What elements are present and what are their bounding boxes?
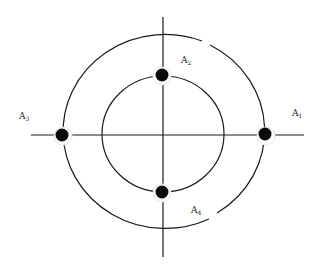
label-a4: A4 — [190, 205, 202, 216]
label-a2: A2 — [180, 55, 192, 66]
point-a3 — [54, 127, 72, 145]
point-a1 — [257, 127, 275, 145]
label-a1: A1 — [291, 108, 302, 119]
point-a4-dot — [156, 186, 169, 199]
point-a4 — [153, 184, 171, 202]
point-a1-dot — [259, 128, 272, 141]
point-a2 — [153, 67, 171, 85]
label-a3: A3 — [18, 111, 30, 122]
point-a3-dot — [56, 129, 69, 142]
diagram-canvas: A2 A3 A1 A4 — [0, 0, 320, 267]
point-a2-dot — [156, 69, 169, 82]
